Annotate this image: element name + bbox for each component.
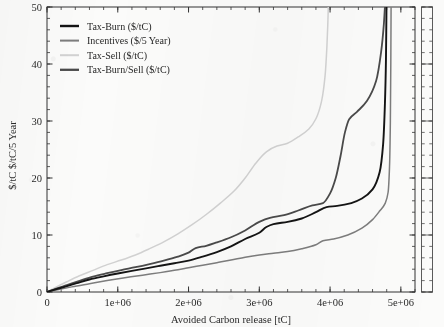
x-tick-label: 3e+06: [246, 297, 272, 308]
x-tick-label: 2e+06: [175, 297, 201, 308]
legend-label: Tax-Burn/Sell ($/tC): [87, 64, 170, 76]
x-tick-label: 4e+06: [317, 297, 343, 308]
x-tick-label: 0: [44, 297, 49, 308]
y-axis-label: $/tC $/tC/5 Year: [7, 121, 18, 190]
y-tick-label: 50: [32, 2, 43, 13]
legend-label: Tax-Burn ($/tC): [87, 21, 152, 33]
scan-edge-artifact: [422, 7, 433, 292]
legend-label: Tax-Sell ($/tC): [87, 50, 147, 62]
y-tick-label: 20: [32, 173, 43, 184]
x-tick-label: 5e+06: [388, 297, 414, 308]
figure-chart: 01e+062e+063e+064e+065e+0601020304050Avo…: [0, 0, 444, 327]
legend-label: Incentives ($/5 Year): [87, 35, 171, 47]
chart-canvas: 01e+062e+063e+064e+065e+0601020304050Avo…: [0, 0, 444, 327]
y-tick-label: 10: [32, 230, 43, 241]
x-axis-label: Avoided Carbon release [tC]: [171, 314, 291, 325]
y-tick-label: 0: [37, 287, 42, 298]
legend: Tax-Burn ($/tC)Incentives ($/5 Year)Tax-…: [60, 21, 171, 77]
y-tick-label: 40: [32, 59, 43, 70]
svg-text:$/tC $/tC/5 Year: $/tC $/tC/5 Year: [7, 121, 18, 190]
x-tick-label: 1e+06: [105, 297, 131, 308]
y-tick-label: 30: [32, 116, 43, 127]
